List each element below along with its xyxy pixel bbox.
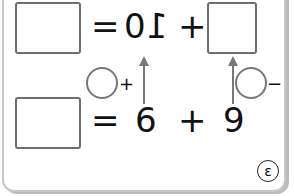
bottom-plus-sign: + [178, 103, 207, 137]
bottom-left-number: 6 [135, 103, 157, 137]
right-helper-circle[interactable] [235, 67, 267, 99]
top-plus-sign: + [178, 9, 207, 43]
digit-one-mirrored: 1 [146, 9, 168, 43]
left-helper-circle[interactable] [86, 67, 118, 99]
left-helper-plus: + [119, 75, 134, 93]
top-equals-sign: = [91, 9, 120, 43]
top-number-ten-mirrored: 01 [124, 9, 167, 43]
right-up-arrow-icon [232, 64, 234, 104]
right-helper-minus: − [267, 75, 282, 93]
top-left-answer-box[interactable] [15, 2, 81, 54]
bottom-right-number: 9 [223, 103, 245, 137]
bottom-equals-sign: = [91, 103, 120, 137]
left-up-arrow-icon [143, 64, 145, 104]
top-right-answer-box[interactable] [207, 2, 257, 54]
bottom-left-answer-box[interactable] [15, 97, 81, 149]
digit-zero: 0 [124, 6, 146, 46]
exercise-number-badge: ε [257, 160, 279, 182]
